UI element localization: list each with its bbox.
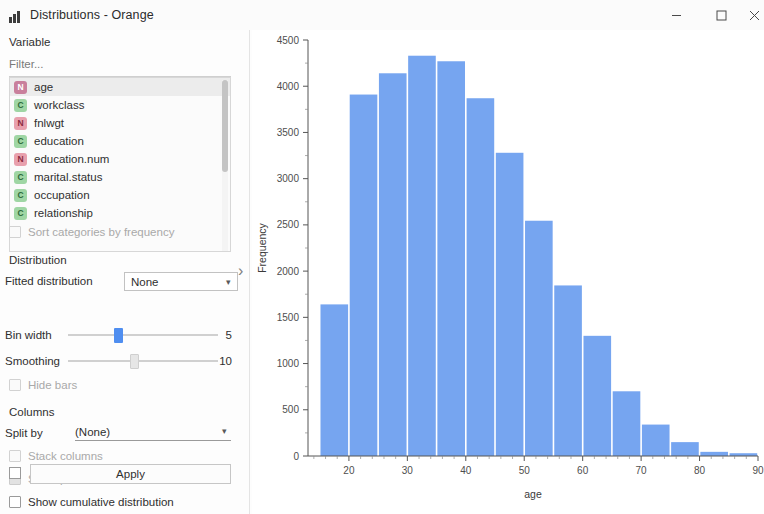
smoothing-text: Smoothing: [5, 355, 60, 367]
variable-item-occupation[interactable]: Coccupation: [10, 186, 230, 204]
variable-item-workclass[interactable]: Cworkclass: [10, 96, 230, 114]
y-tick-label: 500: [282, 404, 299, 415]
distribution-plot: 0500100015002000250030003500400045002030…: [252, 30, 764, 514]
x-tick-label: 50: [519, 465, 531, 476]
categorical-variable-icon: C: [14, 189, 27, 202]
variable-label: education: [34, 135, 84, 147]
smoothing-label: Smoothing: [5, 355, 60, 367]
x-tick-label: 60: [577, 465, 589, 476]
checkbox-box: [9, 496, 21, 508]
split-by-value: (None): [75, 426, 110, 438]
histogram-bar[interactable]: [467, 98, 495, 456]
panel-splitter[interactable]: [249, 30, 250, 514]
window-controls: [654, 0, 764, 30]
numeric-variable-icon: N: [14, 153, 27, 166]
histogram-bar[interactable]: [496, 153, 524, 456]
variable-item-fnlwgt[interactable]: Nfnlwgt: [10, 114, 230, 132]
hide-bars-label: Hide bars: [28, 379, 77, 391]
checkbox-box: [9, 450, 21, 462]
close-icon[interactable]: [744, 0, 764, 30]
histogram-bar[interactable]: [379, 73, 407, 456]
variable-label: marital.status: [34, 171, 102, 183]
distributions-window: Distributions - Orange Variable Filter..…: [0, 0, 764, 514]
slider-handle[interactable]: [114, 328, 123, 343]
variable-list-scrollbar[interactable]: [222, 80, 228, 251]
bin-width-label: Bin width: [5, 329, 52, 341]
histogram-bar[interactable]: [525, 221, 553, 456]
sort-categories-checkbox[interactable]: Sort categories by frequency: [9, 226, 174, 238]
hide-bars-checkbox[interactable]: Hide bars: [9, 379, 77, 391]
x-tick-label: 30: [402, 465, 414, 476]
categorical-variable-icon: C: [14, 135, 27, 148]
y-axis-title: Frequency: [256, 222, 268, 272]
minimize-icon[interactable]: [654, 0, 699, 30]
variable-label: workclass: [34, 99, 84, 111]
show-cumulative-checkbox[interactable]: Show cumulative distribution: [9, 496, 174, 508]
fitted-distribution-label: Fitted distribution: [5, 275, 93, 287]
smoothing-slider[interactable]: [68, 354, 218, 368]
histogram-bar[interactable]: [350, 95, 378, 456]
title-bar: Distributions - Orange: [0, 0, 764, 30]
histogram-bar[interactable]: [700, 452, 728, 456]
chevron-down-icon: ▾: [226, 277, 231, 287]
bin-width-slider[interactable]: [68, 328, 218, 342]
variable-label: occupation: [34, 189, 90, 201]
y-tick-label: 2500: [277, 219, 300, 230]
y-tick-label: 4000: [277, 81, 300, 92]
window-title: Distributions - Orange: [30, 8, 154, 22]
fitted-distribution-select[interactable]: None ▾: [124, 272, 238, 291]
histogram-bar[interactable]: [320, 304, 348, 456]
variable-label: fnlwgt: [34, 117, 64, 129]
categorical-variable-icon: C: [14, 207, 27, 220]
y-tick-label: 1000: [277, 358, 300, 369]
columns-group-title: Columns: [9, 406, 54, 418]
histogram-bar[interactable]: [671, 442, 699, 456]
slider-handle[interactable]: [130, 354, 139, 369]
histogram-bar[interactable]: [554, 285, 582, 456]
variable-group-title: Variable: [9, 36, 50, 48]
split-by-select[interactable]: (None) ▾: [75, 424, 231, 441]
variable-item-education-num[interactable]: Neducation.num: [10, 150, 230, 168]
variable-item-age[interactable]: Nage: [10, 78, 230, 96]
maximize-icon[interactable]: [699, 0, 744, 30]
y-tick-label: 0: [293, 451, 299, 462]
control-panel: Variable Filter... NageCworkclassNfnlwgt…: [0, 30, 240, 514]
x-axis-title: age: [524, 488, 542, 500]
checkbox-box: [9, 226, 21, 238]
distribution-group-title: Distribution: [9, 254, 67, 266]
smoothing-value: 10: [202, 355, 232, 367]
scrollbar-thumb[interactable]: [222, 80, 228, 172]
histogram-bar[interactable]: [437, 61, 465, 456]
variable-label: relationship: [34, 207, 93, 219]
sort-categories-label: Sort categories by frequency: [28, 226, 174, 238]
stack-columns-checkbox[interactable]: Stack columns: [9, 450, 103, 462]
histogram-bar[interactable]: [583, 336, 611, 456]
split-by-label: Split by: [5, 427, 43, 439]
variable-item-relationship[interactable]: Crelationship: [10, 204, 230, 222]
histogram-bar[interactable]: [613, 391, 641, 456]
variable-label: education.num: [34, 153, 109, 165]
variable-item-education[interactable]: Ceducation: [10, 132, 230, 150]
slider-track: [68, 334, 218, 336]
filter-input[interactable]: Filter...: [9, 58, 229, 70]
variable-item-marital-status[interactable]: Cmarital.status: [10, 168, 230, 186]
histogram-bar[interactable]: [408, 56, 436, 456]
histogram-bar[interactable]: [642, 425, 670, 456]
chevron-right-icon[interactable]: ›: [238, 262, 243, 280]
y-tick-label: 4500: [277, 35, 300, 46]
checkbox-box: [9, 379, 21, 391]
split-by-text: Split by: [5, 427, 43, 439]
y-tick-label: 3000: [277, 173, 300, 184]
variable-label: age: [34, 81, 53, 93]
bin-width-text: Bin width: [5, 329, 52, 341]
bin-width-value: 5: [206, 329, 232, 341]
chevron-down-icon: ▾: [222, 426, 227, 436]
x-tick-label: 40: [460, 465, 472, 476]
apply-auto-checkbox[interactable]: [9, 467, 21, 479]
histogram-svg: 0500100015002000250030003500400045002030…: [252, 30, 764, 514]
fitted-distribution-text: Fitted distribution: [5, 275, 93, 287]
show-cumulative-label: Show cumulative distribution: [28, 496, 174, 508]
apply-button[interactable]: Apply: [30, 464, 231, 484]
stack-columns-label: Stack columns: [28, 450, 103, 462]
fitted-distribution-value: None: [131, 276, 159, 288]
